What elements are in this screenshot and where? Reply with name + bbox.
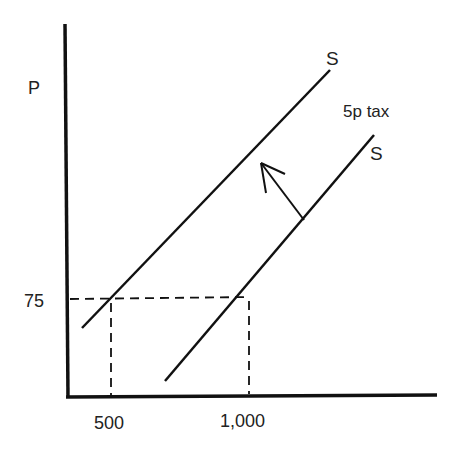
supply-curve-before-tax	[165, 135, 374, 381]
y-axis-label: P	[28, 78, 40, 98]
supply-label-after-tax: S	[326, 48, 339, 69]
supply-tax-diagram: P 75 500 1,000 S S 5p tax	[0, 0, 461, 463]
tax-annotation: 5p tax	[343, 102, 390, 121]
x-tick-500: 500	[94, 413, 124, 433]
price-75-dashed-line	[70, 297, 250, 299]
price-tick-label: 75	[24, 291, 44, 311]
supply-curve-after-tax	[82, 70, 330, 328]
x-axis	[66, 395, 437, 397]
x-tick-1000: 1,000	[220, 411, 265, 431]
shift-arrow-icon	[261, 163, 304, 220]
y-axis	[65, 24, 68, 398]
supply-label-before-tax: S	[370, 143, 383, 164]
